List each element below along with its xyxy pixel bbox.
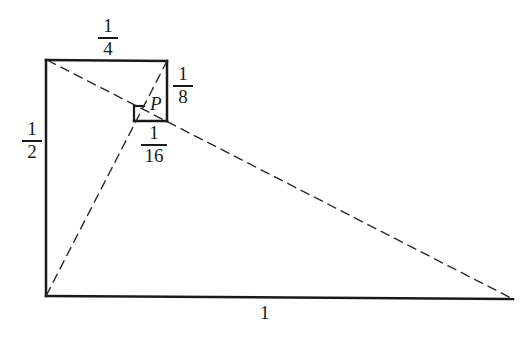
label-one-half: 1 2 <box>22 120 42 161</box>
top-quarter-line <box>46 60 167 61</box>
geometry-diagram <box>0 0 532 338</box>
diagonal-long-dashed <box>47 60 513 299</box>
label-one-eighth: 1 8 <box>173 65 193 106</box>
denominator: 8 <box>178 88 188 106</box>
point-p-label: P <box>150 93 162 115</box>
label-one-sixteenth: 1 16 <box>141 124 167 165</box>
numerator: 1 <box>178 65 188 83</box>
numerator: 1 <box>149 124 159 142</box>
numerator: 1 <box>27 120 37 138</box>
base-length-label: 1 <box>260 302 270 324</box>
denominator: 4 <box>103 40 113 58</box>
label-one-quarter: 1 4 <box>98 17 118 58</box>
denominator: 16 <box>145 147 164 165</box>
denominator: 2 <box>27 143 37 161</box>
base-line <box>46 296 513 299</box>
diagonal-steep-dashed <box>46 61 167 296</box>
numerator: 1 <box>103 17 113 35</box>
